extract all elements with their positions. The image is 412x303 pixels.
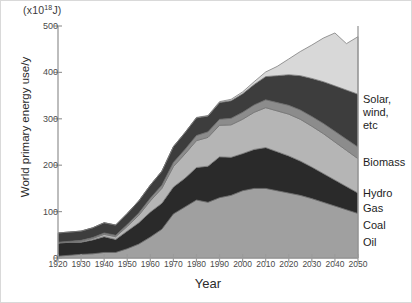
stacked-areas [58, 33, 358, 258]
y-tick-label: 300 [32, 114, 58, 124]
y-tick-label: 100 [32, 207, 58, 217]
y-tick-labels: 0100200300400500 [28, 1, 58, 303]
y-tick-label: 500 [32, 21, 58, 31]
y-tick-label: 200 [32, 160, 58, 170]
x-tick-label: 2050 [338, 259, 378, 269]
y-tick-label: 400 [32, 67, 58, 77]
x-tick-labels: 1920193019401950196019701980199020002010… [1, 259, 412, 273]
chart-figure: (x1018J) World primary energy use/y Year… [0, 0, 412, 303]
plot-area [1, 1, 412, 303]
